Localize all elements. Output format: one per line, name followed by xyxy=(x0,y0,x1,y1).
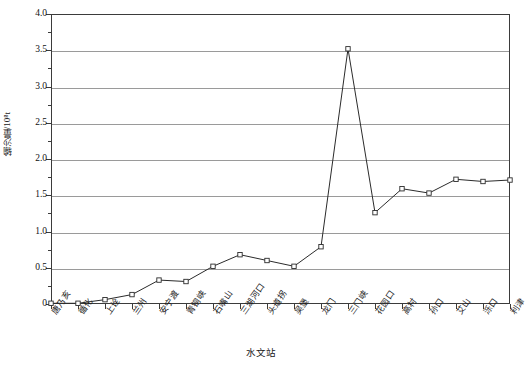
y-axis-tick-label: 3.0 xyxy=(17,82,47,92)
y-axis-tick-label: 1.5 xyxy=(17,190,47,200)
y-axis-minor-tick xyxy=(48,105,52,106)
y-axis-tick-label: 3.5 xyxy=(17,45,47,55)
y-axis-tick-label: 2.5 xyxy=(17,118,47,128)
x-axis-title: 水文站 xyxy=(0,345,522,359)
y-axis-minor-tick xyxy=(48,286,52,287)
plot-area xyxy=(51,14,510,304)
y-axis-minor-tick xyxy=(48,177,52,178)
y-axis-tick-label: 1.0 xyxy=(17,227,47,237)
x-axis-tick-label: 利津 xyxy=(509,296,527,316)
y-axis-minor-tick xyxy=(48,32,52,33)
y-axis-tick-label: 0 xyxy=(17,299,47,309)
gridline xyxy=(52,269,509,270)
gridline xyxy=(52,124,509,125)
gridline xyxy=(52,51,509,52)
gridline xyxy=(52,233,509,234)
y-axis-tick-label: 4.0 xyxy=(17,9,47,19)
y-axis-minor-tick xyxy=(48,141,52,142)
y-axis-minor-tick xyxy=(48,250,52,251)
y-axis-minor-tick xyxy=(48,213,52,214)
y-axis-minor-tick xyxy=(48,68,52,69)
gridline xyxy=(52,196,509,197)
y-axis-tick-label: 0.5 xyxy=(17,263,47,273)
y-axis-tick-label: 2.0 xyxy=(17,154,47,164)
y-axis-title: 输沙量/10⁸t xyxy=(2,112,18,156)
gridline xyxy=(52,160,509,161)
gridline xyxy=(52,88,509,89)
